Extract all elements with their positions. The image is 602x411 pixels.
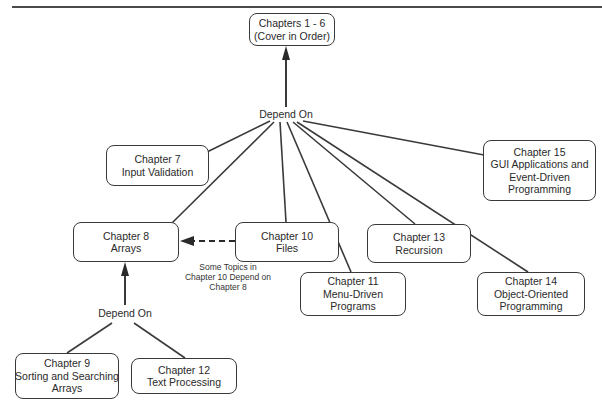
edge-hub-to-ch7	[207, 121, 270, 152]
node-chapter-12: Chapter 12 Text Processing	[131, 358, 237, 394]
dependency-note: Some Topics in Chapter 10 Depend on Chap…	[176, 262, 280, 292]
node-subtitle: Input Validation	[122, 166, 194, 179]
node-subtitle: Object-Oriented	[494, 288, 568, 301]
node-subtitle: Text Processing	[147, 376, 221, 389]
note-line: Some Topics in	[176, 262, 280, 272]
note-line: Chapter 8	[176, 282, 280, 292]
edge-hub-to-ch15	[303, 121, 484, 155]
node-title: Chapter 14	[505, 275, 557, 288]
node-subtitle: Files	[276, 242, 298, 255]
note-line: Chapter 10 Depend on	[176, 272, 280, 282]
node-chapter-8: Chapter 8 Arrays	[73, 222, 179, 262]
edge-lower-hub-to-ch9	[67, 323, 112, 353]
node-chapters-1-6: Chapters 1 - 6 (Cover in Order)	[249, 13, 335, 46]
node-title: Chapter 8	[103, 230, 149, 243]
node-subtitle: Programming	[499, 300, 562, 313]
node-title: Chapter 11	[327, 275, 378, 288]
node-title: Chapter 15	[514, 146, 566, 159]
node-title: Chapter 13	[393, 231, 445, 244]
hub-label-bottom: Depend On	[97, 307, 153, 319]
node-chapter-13: Chapter 13 Recursion	[367, 224, 471, 263]
node-subtitle: Recursion	[395, 244, 442, 257]
edge-hub-to-ch13	[293, 122, 415, 224]
arrowhead-up-icon	[282, 46, 290, 60]
node-chapter-14: Chapter 14 Object-Oriented Programming	[477, 272, 585, 316]
node-chapter-11: Chapter 11 Menu-Driven Programs	[300, 272, 406, 316]
node-subtitle: Arrays	[52, 382, 82, 395]
node-subtitle: Event-Driven	[509, 171, 570, 184]
edge-layer	[0, 0, 602, 411]
node-subtitle: Arrays	[111, 242, 141, 255]
node-subtitle: (Cover in Order)	[254, 30, 330, 43]
node-chapter-10: Chapter 10 Files	[235, 222, 339, 262]
node-subtitle: Programming	[508, 183, 571, 196]
node-subtitle: GUI Applications and	[490, 158, 588, 171]
node-subtitle: Menu-Driven	[323, 288, 383, 301]
node-subtitle: Programs	[330, 300, 376, 313]
node-title: Chapters 1 - 6	[259, 17, 326, 30]
node-title: Chapter 7	[134, 153, 180, 166]
edge-lower-hub-to-ch12	[134, 323, 185, 358]
arrowhead-left-icon	[180, 236, 194, 246]
edge-hub-to-ch10	[280, 122, 286, 222]
node-chapter-9: Chapter 9 Sorting and Searching Arrays	[15, 353, 119, 399]
node-title: Chapter 12	[158, 364, 210, 377]
node-title: Chapter 9	[44, 357, 90, 370]
node-subtitle: Sorting and Searching	[15, 370, 119, 383]
node-chapter-7: Chapter 7 Input Validation	[106, 145, 209, 186]
hub-label-top: Depend On	[258, 108, 314, 120]
node-chapter-15: Chapter 15 GUI Applications and Event-Dr…	[483, 140, 596, 201]
arrowhead-up-icon	[121, 262, 129, 276]
node-title: Chapter 10	[261, 230, 313, 243]
